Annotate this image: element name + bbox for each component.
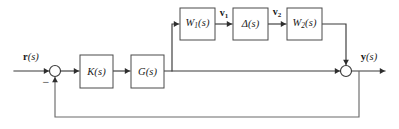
w2-to-sum-wire xyxy=(322,24,346,65)
weight-two-block-label: W2(s) xyxy=(293,18,317,29)
output-signal-label: y(s) xyxy=(361,52,377,63)
v2-signal-label: v2 xyxy=(273,7,282,19)
arrow-into-sum-in xyxy=(44,68,49,74)
arrow-into-w1 xyxy=(174,21,179,27)
v1-signal-label: v1 xyxy=(220,8,229,20)
arrow-into-sum-out-top xyxy=(343,60,349,65)
weight-one-block-label: W1(s) xyxy=(186,18,210,29)
input-summing-junction[interactable] xyxy=(50,66,61,77)
arrow-into-controller xyxy=(74,68,79,74)
branch-up-wire xyxy=(172,24,179,71)
arrow-output-end xyxy=(380,68,385,74)
arrow-into-plant xyxy=(125,68,130,74)
arrow-into-w2 xyxy=(281,21,286,27)
negative-feedback-sign: − xyxy=(43,76,50,88)
reference-input-label: r(s) xyxy=(23,52,39,63)
arrow-feedback-up xyxy=(52,77,58,82)
controller-block-label: K(s) xyxy=(87,66,106,77)
block-diagram-canvas: K(s)G(s)W1(s)Δ(s)W2(s)r(s)y(s)v1v2− xyxy=(0,0,399,129)
uncertainty-block-label: Δ(s) xyxy=(242,19,260,30)
arrow-into-delta xyxy=(227,21,232,27)
arrow-into-sum-out-left xyxy=(335,68,340,74)
output-summing-junction[interactable] xyxy=(341,66,352,77)
plant-block-label: G(s) xyxy=(138,66,157,77)
